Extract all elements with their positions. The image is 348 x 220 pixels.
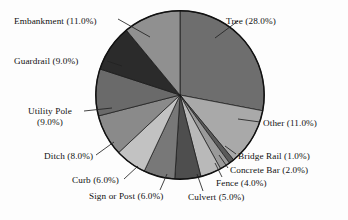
pie-label-other: Other (11.0%) bbox=[263, 118, 317, 129]
pie-label-ditch: Ditch (8.0%) bbox=[44, 151, 93, 162]
pie-label-tree: Tree (28.0%) bbox=[226, 16, 276, 27]
pie-label-sign-or-post: Sign or Post (6.0%) bbox=[89, 191, 163, 202]
pie-label-fence: Fence (4.0%) bbox=[216, 178, 267, 189]
pie-label-guardrail: Guardrail (9.0%) bbox=[14, 56, 78, 67]
pie-label-curb: Curb (6.0%) bbox=[72, 175, 119, 186]
pie-label-utility-pole-line2: (9.0%) bbox=[37, 117, 63, 127]
pie-label-concrete-bar: Concrete Bar (2.0%) bbox=[230, 165, 308, 176]
pie-chart-screenshot: Embankment (11.0%) Guardrail (9.0%) Util… bbox=[0, 0, 348, 220]
leader-line-ditch bbox=[96, 142, 114, 155]
pie-label-embankment: Embankment (11.0%) bbox=[14, 16, 97, 27]
pie-label-culvert: Culvert (5.0%) bbox=[188, 192, 245, 203]
pie-label-bridge-rail: Bridge Rail (1.0%) bbox=[238, 151, 310, 162]
pie-label-utility-pole-line1: Utility Pole bbox=[28, 106, 72, 116]
pie-label-utility-pole: Utility Pole(9.0%) bbox=[19, 106, 81, 128]
leader-line-curb bbox=[124, 166, 138, 179]
